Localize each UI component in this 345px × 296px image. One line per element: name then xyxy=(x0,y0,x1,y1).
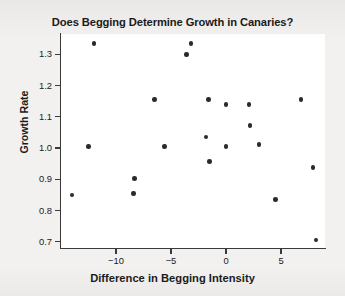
x-tick-mark xyxy=(115,249,116,254)
y-tick-mark xyxy=(55,85,60,86)
scatter-plot-figure: Does Begging Determine Growth in Canarie… xyxy=(0,0,345,296)
chart-title: Does Begging Determine Growth in Canarie… xyxy=(0,16,345,28)
x-tick-label: −5 xyxy=(156,255,186,266)
y-tick-label: 0.9 xyxy=(18,173,52,185)
y-tick-label-text: 0.7 xyxy=(22,236,52,247)
y-tick-label-text: 1.0 xyxy=(22,142,52,153)
y-tick-mark xyxy=(55,210,60,211)
y-tick-label-text: 1.3 xyxy=(22,48,52,59)
y-tick-mark xyxy=(55,54,60,55)
plot-area xyxy=(61,34,325,248)
y-tick-label: 1.2 xyxy=(18,80,52,92)
y-tick-mark xyxy=(55,241,60,242)
x-axis-label: Difference in Begging Intensity xyxy=(0,272,345,284)
y-tick-label: 0.7 xyxy=(18,236,52,248)
x-tick-label: −10 xyxy=(101,255,131,266)
data-point xyxy=(207,159,212,164)
y-tick-label: 1.3 xyxy=(18,48,52,60)
x-tick-mark xyxy=(280,249,281,254)
data-point xyxy=(273,197,278,202)
data-point xyxy=(131,191,136,196)
data-point xyxy=(311,165,316,170)
y-tick-label-text: 1.2 xyxy=(22,80,52,91)
y-tick-mark xyxy=(55,116,60,117)
y-tick-label: 1.1 xyxy=(18,111,52,123)
y-tick-label: 1.0 xyxy=(18,142,52,154)
y-tick-label: 0.8 xyxy=(18,205,52,217)
data-point xyxy=(152,97,157,102)
data-point xyxy=(132,176,137,181)
x-tick-mark xyxy=(170,249,171,254)
x-tick-label: 5 xyxy=(266,255,296,266)
data-point xyxy=(189,41,194,46)
data-point xyxy=(257,142,262,147)
data-point xyxy=(247,102,252,107)
data-point xyxy=(162,144,167,149)
y-axis-line xyxy=(60,33,61,249)
y-tick-label-text: 1.1 xyxy=(22,111,52,122)
data-point xyxy=(299,97,304,102)
data-point xyxy=(86,144,91,149)
y-tick-mark xyxy=(55,147,60,148)
y-tick-mark xyxy=(55,179,60,180)
data-point xyxy=(206,97,211,102)
data-point xyxy=(92,41,97,46)
x-tick-mark xyxy=(225,249,226,254)
x-tick-label: 0 xyxy=(211,255,241,266)
y-tick-label-text: 0.8 xyxy=(22,205,52,216)
data-point xyxy=(224,102,229,107)
y-tick-label-text: 0.9 xyxy=(22,173,52,184)
data-point xyxy=(184,52,189,57)
data-point xyxy=(224,144,229,149)
x-axis-line xyxy=(60,248,326,249)
